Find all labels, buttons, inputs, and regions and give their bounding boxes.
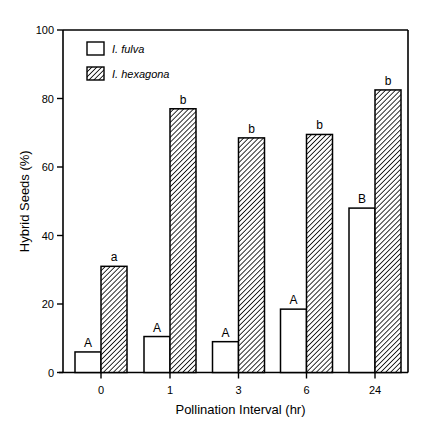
x-tick-label: 24 [369, 384, 381, 396]
y-tick-label: 20 [42, 298, 54, 310]
significance-letter: b [316, 118, 323, 132]
y-axis-label: Hybrid Seeds (%) [17, 150, 32, 252]
y-tick-label: 40 [42, 230, 54, 242]
significance-letter: A [221, 326, 229, 340]
bar-fulva [281, 309, 307, 372]
x-tick-label: 3 [235, 384, 241, 396]
y-tick-label: 80 [42, 93, 54, 105]
significance-letter: b [248, 122, 255, 136]
significance-letter: A [289, 293, 297, 307]
y-tick-label: 0 [48, 367, 54, 379]
significance-letter: a [111, 250, 118, 264]
bar-fulva [75, 352, 101, 373]
x-tick-label: 0 [98, 384, 104, 396]
significance-letter: b [180, 93, 187, 107]
x-axis-label: Pollination Interval (hr) [175, 402, 305, 417]
bar-hexagona [375, 90, 401, 373]
legend-swatch [87, 42, 104, 55]
significance-letter: A [153, 321, 161, 335]
legend-label: I. fulva [112, 43, 144, 55]
x-tick-label: 1 [167, 384, 173, 396]
bar-fulva [213, 342, 239, 373]
bar-chart: 020406080100Hybrid Seeds (%)Pollination … [0, 0, 427, 434]
legend: I. fulvaI. hexagona [87, 42, 170, 80]
legend-swatch [87, 67, 104, 80]
bar-hexagona [239, 138, 265, 373]
significance-letter: b [385, 74, 392, 88]
bar-hexagona [101, 266, 127, 372]
bar-hexagona [170, 109, 196, 373]
bar-hexagona [307, 134, 333, 372]
y-tick-label: 60 [42, 161, 54, 173]
significance-letter: B [358, 192, 366, 206]
significance-letter: A [84, 336, 92, 350]
y-tick-label: 100 [36, 24, 54, 36]
bars: AaAbAbAbBb [75, 74, 401, 373]
bar-fulva [349, 208, 375, 372]
legend-label: I. hexagona [112, 68, 170, 80]
bar-fulva [144, 337, 170, 373]
x-tick-label: 6 [303, 384, 309, 396]
